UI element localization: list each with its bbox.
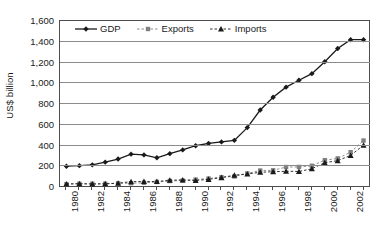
y-axis-tick-label: 0	[49, 181, 54, 192]
x-axis-tick-mark	[78, 186, 79, 190]
x-axis-tick-mark	[363, 186, 364, 190]
grid-line	[60, 165, 370, 166]
legend-entry-gdp[interactable]: GDP	[75, 23, 121, 34]
grid-line	[60, 103, 370, 104]
x-axis-tick-mark	[298, 186, 299, 190]
square-marker-icon	[361, 138, 365, 142]
series-line	[66, 141, 363, 185]
y-axis-tick-label: 1,000	[30, 77, 54, 88]
y-axis-tick-label: 400	[38, 139, 54, 150]
x-axis-tick-labels: 1980198219841986198819901992199419961998…	[59, 186, 371, 231]
line-chart-figure: US$ billion 02004006008001,0001,2001,400…	[0, 0, 387, 231]
x-axis-tick-label: 1990	[199, 191, 210, 212]
x-axis-tick-mark	[65, 186, 66, 190]
diamond-marker-icon	[141, 152, 146, 157]
diamond-marker-icon	[167, 151, 172, 156]
triangle-marker-icon	[210, 24, 232, 34]
x-axis-tick-label: 1980	[69, 191, 80, 212]
legend-label: Imports	[235, 23, 267, 34]
diamond-marker-icon	[180, 147, 185, 152]
chart-legend: GDPExportsImports	[72, 21, 270, 36]
legend-entry-exports[interactable]: Exports	[137, 23, 194, 34]
x-axis-tick-mark	[117, 186, 118, 190]
x-axis-tick-label: 2000	[328, 191, 339, 212]
diamond-marker-icon	[219, 139, 224, 144]
diamond-marker-icon	[154, 155, 159, 160]
x-axis-tick-mark	[337, 186, 338, 190]
diamond-marker-icon	[128, 151, 133, 156]
y-axis-tick-label: 1,200	[30, 56, 54, 67]
x-axis-tick-mark	[246, 186, 247, 190]
grid-line	[60, 124, 370, 125]
y-axis-title-text: US$ billion	[4, 72, 15, 119]
diamond-marker-icon	[83, 26, 88, 31]
x-axis-tick-mark	[208, 186, 209, 190]
x-axis-tick-mark	[130, 186, 131, 190]
x-axis-tick-mark	[182, 186, 183, 190]
x-axis-tick-mark	[195, 186, 196, 190]
x-axis-tick-mark	[143, 186, 144, 190]
x-axis-tick-label: 1996	[276, 191, 287, 212]
diamond-marker-icon	[75, 24, 97, 34]
y-axis-tick-label: 200	[38, 160, 54, 171]
y-axis-tick-labels: 02004006008001,0001,2001,4001,600	[16, 0, 58, 231]
x-axis-tick-mark	[285, 186, 286, 190]
x-axis-tick-mark	[156, 186, 157, 190]
x-axis-tick-label: 1982	[95, 191, 106, 212]
legend-label: Exports	[162, 23, 194, 34]
x-axis-tick-label: 1994	[250, 191, 261, 212]
y-axis-tick-label: 1,400	[30, 35, 54, 46]
grid-line	[60, 62, 370, 63]
y-axis-tick-label: 800	[38, 98, 54, 109]
x-axis-tick-label: 1988	[173, 191, 184, 212]
x-axis-tick-mark	[169, 186, 170, 190]
y-axis-tick-label: 600	[38, 118, 54, 129]
x-axis-tick-mark	[311, 186, 312, 190]
square-marker-icon	[145, 26, 149, 30]
x-axis-tick-label: 1992	[224, 191, 235, 212]
grid-line	[60, 41, 370, 42]
plot-area	[59, 20, 370, 187]
y-axis-title: US$ billion	[2, 0, 16, 190]
x-axis-tick-mark	[272, 186, 273, 190]
x-axis-tick-mark	[233, 186, 234, 190]
y-axis-tick-label: 1,600	[30, 15, 54, 26]
x-axis-tick-label: 1986	[147, 191, 158, 212]
x-axis-tick-mark	[259, 186, 260, 190]
triangle-marker-icon	[218, 26, 224, 32]
legend-entry-imports[interactable]: Imports	[210, 23, 267, 34]
x-axis-tick-mark	[350, 186, 351, 190]
x-axis-tick-label: 1998	[302, 191, 313, 212]
x-axis-tick-mark	[91, 186, 92, 190]
grid-line	[60, 82, 370, 83]
diamond-marker-icon	[115, 156, 120, 161]
x-axis-tick-mark	[220, 186, 221, 190]
x-axis-tick-label: 1984	[121, 191, 132, 212]
grid-line	[60, 145, 370, 146]
legend-label: GDP	[100, 23, 121, 34]
x-axis-tick-mark	[104, 186, 105, 190]
x-axis-tick-mark	[324, 186, 325, 190]
square-marker-icon	[137, 24, 159, 34]
x-axis-tick-label: 2002	[354, 191, 365, 212]
